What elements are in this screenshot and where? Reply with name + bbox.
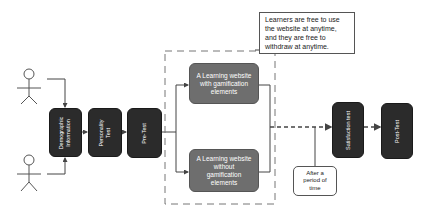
actor-icon (17, 69, 41, 104)
callout-text: After a period of time (298, 170, 332, 193)
step-label: Post-Test (394, 120, 401, 143)
group-label: A Learning website with gamification ele… (196, 72, 252, 96)
without-gamification-group: A Learning website without gamification … (189, 149, 259, 192)
group-label: A Learning website without gamification … (196, 155, 252, 187)
step-label: Personality Test (98, 117, 112, 149)
step-label: Demographic Information (59, 116, 73, 149)
time-callout: After a period of time (293, 166, 337, 196)
post-test-step: Post-Test (381, 103, 413, 159)
note-text: Learners are free to use the website at … (265, 16, 340, 50)
pre-test-step: Pre-Test (127, 108, 162, 158)
satisfaction-test-step: Satisfaction test (332, 102, 364, 158)
actor-icon (17, 155, 41, 191)
freedom-note: Learners are free to use the website at … (259, 12, 355, 54)
personality-test-step: Personality Test (88, 108, 122, 157)
demographic-information-step: Demographic Information (49, 108, 82, 157)
with-gamification-group: A Learning website with gamification ele… (189, 63, 259, 104)
step-label: Satisfaction test (345, 111, 352, 150)
step-label: Pre-Test (141, 123, 148, 143)
